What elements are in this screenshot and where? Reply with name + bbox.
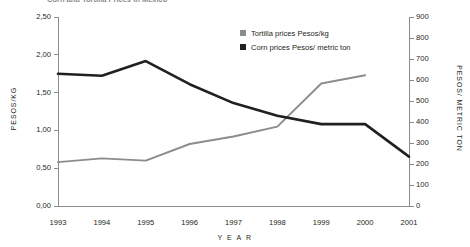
legend-swatch-icon (240, 44, 246, 50)
series-line (58, 75, 365, 162)
series-line (58, 61, 409, 157)
legend-item[interactable]: Tortilla prices Pesos/kg (240, 27, 351, 39)
legend-item-label: Corn prices Pesos/ metric ton (251, 43, 351, 52)
legend-item[interactable]: Corn prices Pesos/ metric ton (240, 41, 351, 53)
legend-item-label: Tortilla prices Pesos/kg (251, 29, 329, 38)
legend-swatch-icon (240, 30, 246, 36)
plot-area (0, 0, 470, 247)
chart-container: Corn and Tortilla Prices in Mexico 0,000… (0, 0, 470, 247)
chart-legend: Tortilla prices Pesos/kgCorn prices Peso… (240, 27, 351, 55)
